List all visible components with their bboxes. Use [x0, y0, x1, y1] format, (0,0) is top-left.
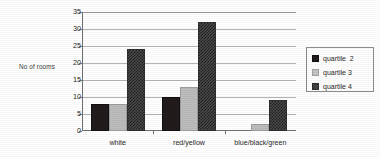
x-axis-tick-mark: [225, 131, 226, 134]
legend-swatch-icon: [312, 83, 319, 90]
plot-area: [82, 12, 296, 131]
legend-swatch-icon: [312, 69, 319, 76]
bar-q2-1: [162, 97, 180, 131]
bar-q3-2: [251, 124, 269, 131]
y-axis-title: No of rooms: [6, 63, 68, 70]
x-axis-tick-label: blue/black/green: [215, 139, 305, 147]
legend-item-label: quartile 3: [323, 69, 352, 76]
bar-q4-1: [198, 22, 216, 131]
bar-q3-0: [109, 104, 127, 131]
y-axis-tick-mark: [79, 131, 82, 132]
bar-q4-2: [269, 100, 287, 131]
legend-item-q4: quartile 4: [312, 81, 352, 91]
bar-chart-figure: No of rooms 05101520253035 whitered/yell…: [0, 0, 380, 157]
x-axis-tick-mark: [153, 131, 154, 134]
legend-item-q3: quartile 3: [312, 67, 352, 77]
legend-item-label: quartile 2: [323, 55, 354, 62]
bar-q2-0: [91, 104, 109, 131]
legend-swatch-icon: [312, 55, 319, 62]
bar-q4-0: [127, 49, 145, 131]
legend: quartile 2quartile 3quartile 4: [306, 47, 374, 92]
legend-item-label: quartile 4: [323, 83, 352, 90]
legend-item-q2: quartile 2: [312, 53, 354, 63]
bar-q3-1: [180, 87, 198, 131]
